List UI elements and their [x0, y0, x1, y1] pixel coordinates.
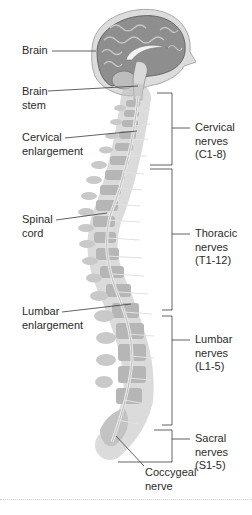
label-spinal-cord: Spinal cord	[22, 213, 53, 240]
label-lumbar-enlargement: Lumbar enlargement	[22, 305, 83, 332]
label-brain-stem: Brain stem	[22, 85, 48, 112]
divider	[0, 499, 252, 500]
spinal-anatomy-figure: Brain Brain stem Cervical enlargement Sp…	[0, 0, 252, 515]
label-lumbar-nerves: Lumbar nerves (L1-5)	[195, 333, 232, 374]
spine-icon	[78, 96, 154, 446]
label-cervical-enlargement: Cervical enlargement	[22, 131, 83, 158]
label-coccygeal-nerve: Coccygeal nerve	[145, 466, 196, 493]
label-brain: Brain	[22, 44, 48, 58]
label-sacral-nerves: Sacral nerves (S1-5)	[195, 432, 228, 473]
label-cervical-nerves: Cervical nerves (C1-8)	[195, 121, 235, 162]
label-thoracic-nerves: Thoracic nerves (T1-12)	[195, 227, 237, 268]
